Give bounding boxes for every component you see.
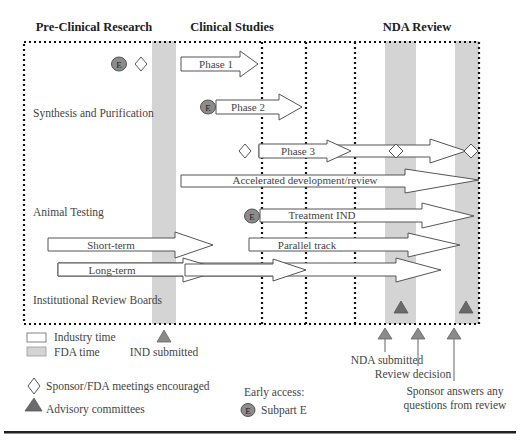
meeting-diamond-icon: [135, 57, 147, 71]
bottom-rule: [4, 431, 516, 434]
legend-advisory-committees: Advisory committees: [46, 403, 145, 416]
row-label-synthesis: Synthesis and Purification: [33, 107, 154, 120]
sponsor-answers-label-line2: questions from review: [404, 399, 508, 412]
legend-subpart-e: Subpart E: [261, 404, 307, 417]
nda-submitted-label: NDA submitted: [351, 354, 424, 366]
drug-development-diagram: Pre-Clinical Research Clinical Studies N…: [0, 0, 523, 443]
header-preclinical: Pre-Clinical Research: [36, 20, 153, 34]
subpart-e-label: E: [249, 212, 255, 222]
legend-fda-time: FDA time: [54, 346, 100, 358]
ind-submitted-marker-icon: [157, 330, 171, 342]
legend-meetings: Sponsor/FDA meetings encouraged: [46, 380, 210, 393]
short-term-label: Short-term: [87, 239, 135, 251]
fda-time-swatch: [27, 347, 46, 356]
header-clinical: Clinical Studies: [190, 20, 274, 34]
row-label-animal-testing: Animal Testing: [33, 206, 104, 219]
fda-band-ind: [152, 41, 176, 324]
sponsor-answers-label: Sponsor answers any: [406, 385, 503, 398]
subpart-e-label: E: [245, 406, 251, 416]
row-label-irb: Institutional Review Boards: [33, 294, 163, 306]
phase-1-label: Phase 1: [199, 58, 233, 70]
accelerated-label: Accelerated development/review: [232, 174, 377, 186]
parallel-track-label: Parallel track: [278, 239, 337, 251]
review-decision-marker-icon: [411, 328, 425, 339]
meeting-diamond-icon: [239, 144, 251, 158]
header-nda-review: NDA Review: [383, 20, 451, 34]
phase-2-label: Phase 2: [231, 101, 265, 113]
subpart-e-label: E: [205, 103, 211, 113]
sponsor-answers-marker-icon: [447, 328, 461, 339]
industry-time-swatch: [27, 333, 46, 342]
advisory-committee-icon: [25, 398, 42, 411]
arrow-long-term-mid: [185, 259, 306, 281]
long-term-label: Long-term: [88, 264, 135, 276]
ind-submitted-label: IND submitted: [130, 346, 199, 358]
meeting-diamond-icon: [28, 378, 40, 394]
review-decision-label: Review decision: [375, 368, 452, 380]
nda-submitted-marker-icon: [378, 328, 392, 339]
treatment-ind-label: Treatment IND: [288, 209, 355, 221]
phase-3-label: Phase 3: [281, 145, 315, 157]
legend-industry-time: Industry time: [54, 331, 116, 344]
legend-early-access-title: Early access:: [244, 386, 304, 399]
subpart-e-label: E: [116, 60, 122, 70]
